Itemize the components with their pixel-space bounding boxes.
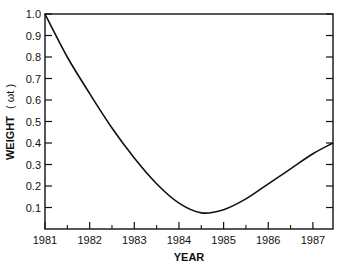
x-tick-label: 1983 [122, 234, 146, 246]
y-tick-label: 1.0 [26, 8, 41, 20]
x-tick-label: 1987 [301, 234, 325, 246]
y-tick-label: 0.9 [26, 30, 41, 42]
x-axis-ticks: 1981198219831984198519861987 [33, 222, 325, 246]
plot-frame [45, 14, 333, 229]
x-tick-label: 1981 [33, 234, 57, 246]
plot-border [45, 14, 333, 229]
y-tick-label: 0.8 [26, 51, 41, 63]
y-tick-label: 0.2 [26, 180, 41, 192]
svg-text:WEIGHT ( ωt ): WEIGHT ( ωt ) [4, 84, 16, 160]
y-tick-label: 0.3 [26, 159, 41, 171]
y-tick-label: 0.1 [26, 202, 41, 214]
x-tick-label: 1986 [256, 234, 280, 246]
y-tick-label: 0.6 [26, 94, 41, 106]
x-axis-title: YEAR [174, 251, 205, 263]
weight-line-chart: 0.10.20.30.40.50.60.70.80.91.0 198119821… [0, 0, 338, 265]
y-tick-label: 0.7 [26, 73, 41, 85]
y-axis-title-group: WEIGHT ( ωt ) [4, 84, 16, 160]
y-axis-title: WEIGHT [4, 116, 16, 160]
weight-curve [45, 14, 333, 213]
y-tick-label: 0.5 [26, 116, 41, 128]
y-tick-label: 0.4 [26, 137, 41, 149]
x-tick-label: 1985 [211, 234, 235, 246]
y-axis-ticks: 0.10.20.30.40.50.60.70.80.91.0 [26, 8, 333, 214]
x-tick-label: 1984 [167, 234, 191, 246]
y-axis-symbol: ( ωt ) [4, 84, 16, 109]
x-tick-label: 1982 [77, 234, 101, 246]
